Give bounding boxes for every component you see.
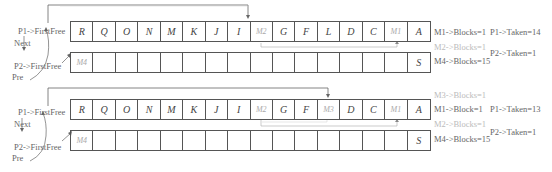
m2-blocks-label: M2->Blocks=1 xyxy=(434,42,486,52)
block-cell: N xyxy=(138,22,160,41)
block-cell xyxy=(93,53,115,72)
block-cell xyxy=(116,131,138,150)
p2-taken-label: P2->Taken=1 xyxy=(490,127,536,137)
pre-label: Pre xyxy=(12,153,23,163)
block-cell: A xyxy=(408,100,430,119)
block-cell xyxy=(206,131,228,150)
block-cell xyxy=(363,131,385,150)
block-cell: A xyxy=(408,22,430,41)
m4-blocks-label: M4->Blocks=15 xyxy=(434,56,490,66)
block-cell: J xyxy=(206,22,228,41)
block-cell: I xyxy=(228,22,250,41)
memory-row-top: R Q O N M K J I M2 G F L D C M1 A xyxy=(70,21,431,42)
block-cell xyxy=(228,131,250,150)
block-cell xyxy=(318,53,340,72)
block-cell xyxy=(273,53,295,72)
block-cell: D xyxy=(340,22,362,41)
free-block-cell: M3 xyxy=(318,100,340,119)
block-cell: C xyxy=(363,100,385,119)
block-cell: S xyxy=(408,131,430,150)
memory-row-bottom: M4 S xyxy=(70,130,431,151)
m3-blocks-label: M3->Blocks=1 xyxy=(434,90,486,100)
block-cell xyxy=(251,131,273,150)
block-cell: M xyxy=(161,100,183,119)
block-cell: O xyxy=(116,100,138,119)
free-block-cell: M1 xyxy=(385,100,407,119)
block-cell xyxy=(206,53,228,72)
next-label: Next xyxy=(14,119,31,129)
p2-taken-label: P2->Taken=1 xyxy=(490,48,536,58)
p2-firstfree-label: P2->FirstFree xyxy=(14,142,61,152)
free-block-cell: M2 xyxy=(251,100,273,119)
block-cell: G xyxy=(273,22,295,41)
block-cell xyxy=(183,131,205,150)
block-cell xyxy=(385,53,407,72)
p1-firstfree-label: P1->FirstFree xyxy=(18,107,65,117)
block-cell: G xyxy=(273,100,295,119)
free-block-cell: M2 xyxy=(251,22,273,41)
block-cell xyxy=(273,131,295,150)
block-cell: F xyxy=(295,100,317,119)
pre-label: Pre xyxy=(12,72,23,82)
block-cell: C xyxy=(363,22,385,41)
block-cell xyxy=(340,53,362,72)
block-cell: F xyxy=(295,22,317,41)
block-cell: Q xyxy=(93,100,115,119)
block-cell: R xyxy=(71,22,93,41)
block-cell: K xyxy=(183,100,205,119)
block-cell xyxy=(138,131,160,150)
block-cell: M xyxy=(161,22,183,41)
block-cell: S xyxy=(408,53,430,72)
block-cell: L xyxy=(318,22,340,41)
free-block-cell: M4 xyxy=(71,53,93,72)
block-cell: K xyxy=(183,22,205,41)
block-cell xyxy=(161,131,183,150)
m1-blocks-label: M1->Block=1 xyxy=(434,104,483,114)
block-cell xyxy=(340,131,362,150)
block-cell xyxy=(161,53,183,72)
block-cell: N xyxy=(138,100,160,119)
p1-firstfree-label: P1->FirstFree xyxy=(18,26,65,36)
block-cell: D xyxy=(340,100,362,119)
block-cell: O xyxy=(116,22,138,41)
block-cell xyxy=(385,131,407,150)
block-cell: I xyxy=(228,100,250,119)
block-cell: R xyxy=(71,100,93,119)
p1-taken-label: P1->Taken=14 xyxy=(490,27,541,37)
m2-blocks-label: M2->Blocks=1 xyxy=(434,119,486,129)
free-block-cell: M4 xyxy=(71,131,93,150)
m4-blocks-label: M4->Blocks=15 xyxy=(434,134,490,144)
memory-row-bottom: M4 S xyxy=(70,52,431,73)
block-cell xyxy=(318,131,340,150)
block-cell xyxy=(183,53,205,72)
p1-taken-label: P1->Taken=13 xyxy=(490,104,541,114)
diagram-panel-2: P1->FirstFree Next P2->FirstFree Pre R Q… xyxy=(0,86,552,172)
next-label: Next xyxy=(14,38,31,48)
block-cell xyxy=(363,53,385,72)
block-cell: J xyxy=(206,100,228,119)
m1-blocks-label: M1->Blocks=1 xyxy=(434,27,486,37)
block-cell xyxy=(295,53,317,72)
block-cell xyxy=(116,53,138,72)
block-cell xyxy=(295,131,317,150)
p2-firstfree-label: P2->FirstFree xyxy=(14,61,61,71)
free-block-cell: M1 xyxy=(385,22,407,41)
block-cell xyxy=(228,53,250,72)
block-cell: Q xyxy=(93,22,115,41)
memory-row-top: R Q O N M K J I M2 G F M3 D C M1 A xyxy=(70,99,431,120)
block-cell xyxy=(138,53,160,72)
diagram-panel-1: P1->FirstFree Next P2->FirstFree Pre R Q… xyxy=(0,0,552,86)
block-cell xyxy=(251,53,273,72)
block-cell xyxy=(93,131,115,150)
